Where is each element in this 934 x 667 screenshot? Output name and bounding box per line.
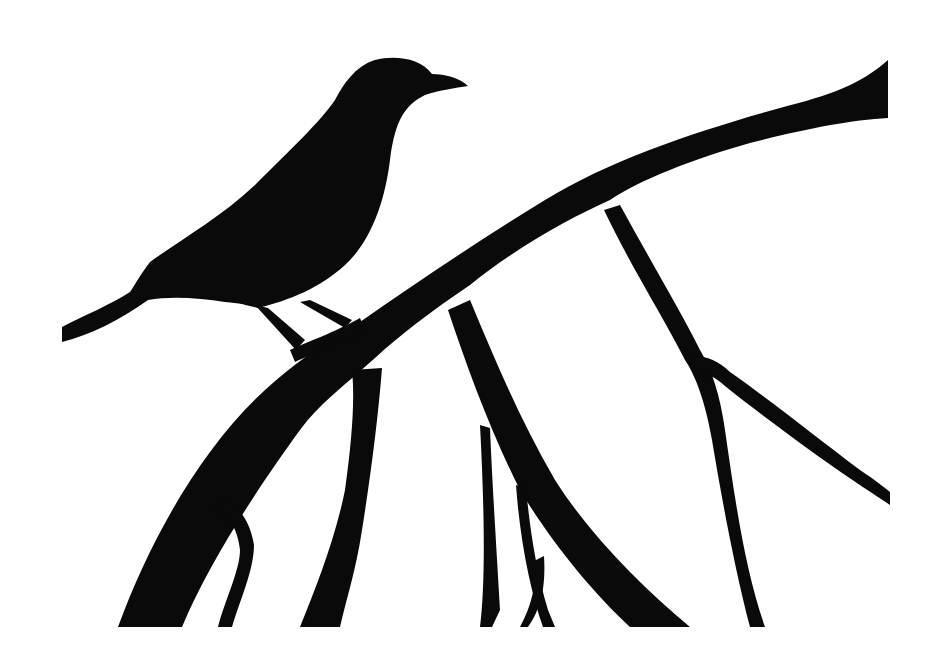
twig-right-main (604, 205, 765, 627)
bird-leg-front (255, 305, 305, 350)
silhouette-drawing (0, 0, 934, 667)
silhouette-image: Black silhouette of a bird perched on a … (0, 0, 934, 667)
bird-leg-back (300, 300, 352, 328)
main-branch (118, 60, 888, 627)
twig-thin-1 (480, 425, 500, 627)
